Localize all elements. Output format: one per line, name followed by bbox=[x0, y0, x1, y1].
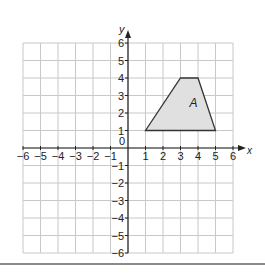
y-tick-label: 6 bbox=[118, 37, 124, 49]
x-tick-label: 1 bbox=[142, 150, 148, 162]
y-tick-label: 5 bbox=[118, 55, 124, 67]
x-tick-label: −2 bbox=[87, 150, 100, 162]
y-tick-label: −1 bbox=[111, 160, 124, 172]
x-tick-label: −3 bbox=[69, 150, 82, 162]
y-tick-label: −3 bbox=[111, 195, 124, 207]
y-tick-label: −2 bbox=[111, 177, 124, 189]
x-tick-label: 2 bbox=[160, 150, 166, 162]
y-tick-label: −4 bbox=[111, 212, 124, 224]
x-tick-label: 3 bbox=[177, 150, 183, 162]
divider-rule bbox=[0, 263, 265, 265]
x-tick-label: 5 bbox=[212, 150, 218, 162]
x-tick-label: 6 bbox=[230, 150, 236, 162]
coordinate-plane: A xy −6−5−4−3−2−1123456−6−5−4−3−2−112345… bbox=[0, 0, 265, 277]
y-axis-label: y bbox=[118, 23, 126, 35]
y-tick-label: 3 bbox=[118, 90, 124, 102]
x-tick-label: −5 bbox=[34, 150, 47, 162]
y-axis-arrow-icon bbox=[125, 30, 131, 38]
shape-label: A bbox=[189, 96, 198, 110]
x-tick-label: 4 bbox=[195, 150, 201, 162]
y-tick-label: 4 bbox=[118, 72, 124, 84]
x-axis-label: x bbox=[246, 145, 253, 156]
shapes-layer: A bbox=[146, 78, 216, 131]
y-tick-label: −5 bbox=[111, 230, 124, 242]
y-tick-label: −6 bbox=[111, 247, 124, 259]
x-axis-arrow-icon bbox=[238, 145, 246, 151]
x-tick-label: −6 bbox=[17, 150, 30, 162]
y-tick-label: 2 bbox=[118, 107, 124, 119]
x-tick-label: −4 bbox=[52, 150, 65, 162]
shape-A bbox=[146, 78, 216, 131]
origin-label: 0 bbox=[119, 135, 125, 147]
